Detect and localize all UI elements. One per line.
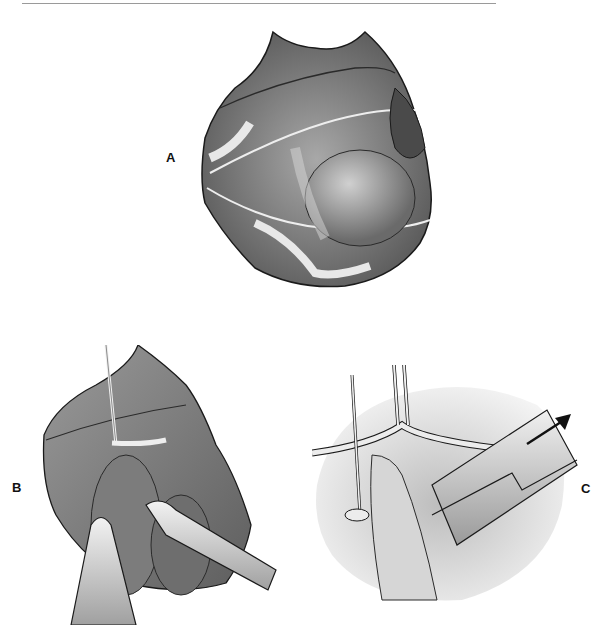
- direction-arrow-icon: [525, 412, 575, 448]
- panel-a-illustration: [195, 28, 445, 298]
- panel-b-illustration: [36, 345, 296, 625]
- panel-a-label: A: [166, 150, 175, 165]
- panel-b-label: B: [12, 480, 21, 495]
- panel-c-illustration: [312, 365, 582, 610]
- header-rule: [22, 3, 496, 4]
- panel-c-label: C: [581, 481, 590, 496]
